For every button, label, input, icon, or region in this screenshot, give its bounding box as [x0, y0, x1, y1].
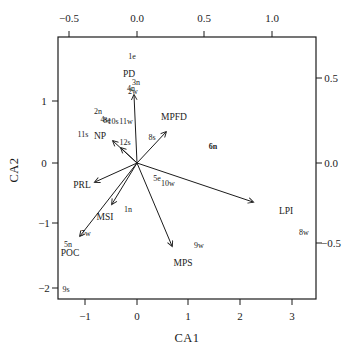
- site-label-1e: 1e: [128, 53, 136, 61]
- top-tick-label-1: 0.0: [130, 13, 144, 24]
- right-tick-label-0: 0.5: [324, 73, 338, 84]
- plot-canvas: [0, 0, 359, 357]
- bottom-tick-label-4: 3: [289, 311, 295, 322]
- arrow-POC: [80, 163, 137, 236]
- site-label-7w: 7w: [81, 230, 91, 238]
- arrow-label-NP: NP: [94, 132, 106, 142]
- site-label-10w: 10w: [161, 180, 175, 188]
- arrow-label-LPI: LPI: [279, 207, 293, 217]
- arrow-stub: [121, 148, 137, 163]
- site-label-6n: 6n: [209, 143, 217, 151]
- arrow-label-PRL: PRL: [73, 181, 90, 191]
- left-tick-label-2: −1: [38, 218, 50, 229]
- left-tick-label-3: −2: [38, 283, 50, 294]
- site-label-1n: 1n: [124, 206, 132, 214]
- left-tick-label-1: 0: [41, 158, 47, 169]
- y-axis-title: CA2: [8, 158, 21, 183]
- site-label-5n: 5n: [64, 241, 72, 249]
- arrow-PD: [134, 95, 137, 163]
- biplot-figure: −0.50.00.51.0−1012310−1−20.50.0−0.5PDMPF…: [0, 0, 359, 357]
- site-label-11s: 11s: [78, 131, 89, 139]
- right-tick-label-2: −0.5: [321, 238, 341, 249]
- arrow-label-MSI: MSI: [97, 213, 114, 223]
- site-label-8s: 8s: [148, 134, 155, 142]
- bottom-tick-label-3: 2: [237, 311, 243, 322]
- site-label-9s: 9s: [62, 286, 69, 294]
- arrow-label-POC: POC: [61, 249, 79, 259]
- bottom-tick-label-2: 1: [185, 311, 191, 322]
- bottom-tick-label-0: −1: [79, 311, 91, 322]
- site-label-10s: 10s: [107, 118, 118, 126]
- site-label-9w: 9w: [194, 242, 204, 250]
- top-tick-label-0: −0.5: [59, 13, 79, 24]
- arrow-label-MPS: MPS: [173, 259, 192, 269]
- left-tick-label-0: 1: [41, 96, 47, 107]
- right-tick-label-1: 0.0: [324, 158, 338, 169]
- top-tick-label-3: 1.0: [265, 13, 279, 24]
- site-label-2w: 2w: [128, 88, 138, 96]
- x-axis-title: CA1: [175, 332, 200, 345]
- top-tick-label-2: 0.5: [197, 13, 211, 24]
- site-label-8w: 8w: [299, 229, 309, 237]
- site-label-5e: 5e: [153, 175, 161, 183]
- bottom-tick-label-1: 0: [134, 311, 140, 322]
- site-label-11w: 11w: [119, 118, 132, 126]
- site-label-12s: 12s: [119, 139, 130, 147]
- arrow-label-MPFD: MPFD: [161, 113, 187, 123]
